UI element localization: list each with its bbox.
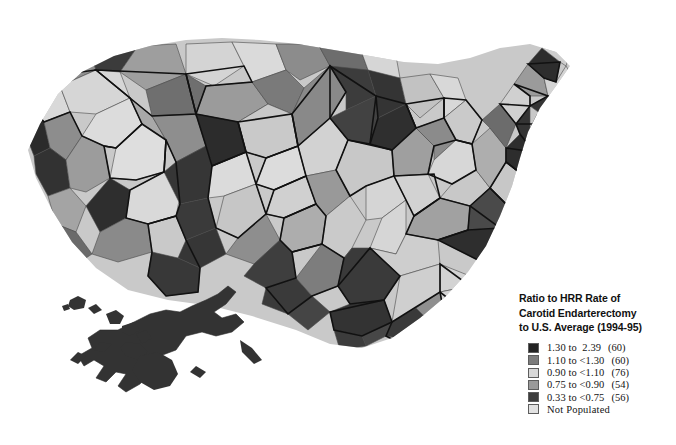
legend-swatch-icon <box>528 368 539 378</box>
legend-swatch-icon <box>528 404 539 414</box>
legend-row: 1.30 to 2.39 (60) <box>519 342 671 354</box>
map-figure: Ratio to HRR Rate of Carotid Endarterect… <box>0 0 676 445</box>
legend-swatch-icon <box>528 343 539 353</box>
legend-row: 0.90 to <1.10 (76) <box>519 366 671 378</box>
legend-count-label: (60) <box>608 342 626 353</box>
legend-row: 1.10 to <1.30 (60) <box>519 354 671 366</box>
legend-count-label: (76) <box>611 367 629 378</box>
legend-swatch-icon <box>528 392 539 402</box>
legend-range-label: 0.90 to <1.10 <box>547 367 604 378</box>
legend-row: Not Populated <box>519 403 671 415</box>
legend-count-label: (54) <box>611 379 629 390</box>
legend-swatch-icon <box>528 355 539 365</box>
legend-title-line-2: Carotid Endarterectomy <box>519 306 671 321</box>
legend-range-label: 0.75 to <0.90 <box>547 379 604 390</box>
legend-title-line-3: to U.S. Average (1994-95) <box>519 320 671 335</box>
legend-range-label: 1.10 to <1.30 <box>547 355 604 366</box>
legend-range-label: 1.30 to 2.39 <box>547 342 601 353</box>
legend-row: 0.75 to <0.90 (54) <box>519 379 671 391</box>
legend-entries: 1.30 to 2.39 (60) 1.10 to <1.30 (60) 0.9… <box>519 342 671 416</box>
legend-count-label: (56) <box>611 392 629 403</box>
legend-title-line-1: Ratio to HRR Rate of <box>519 291 671 306</box>
legend-range-label: Not Populated <box>547 404 610 415</box>
legend-title: Ratio to HRR Rate of Carotid Endarterect… <box>519 291 671 335</box>
legend-row: 0.33 to <0.75 (56) <box>519 391 671 403</box>
map-legend: Ratio to HRR Rate of Carotid Endarterect… <box>519 291 671 416</box>
legend-count-label: (60) <box>611 355 629 366</box>
legend-swatch-icon <box>528 380 539 390</box>
legend-range-label: 0.33 to <0.75 <box>547 392 604 403</box>
